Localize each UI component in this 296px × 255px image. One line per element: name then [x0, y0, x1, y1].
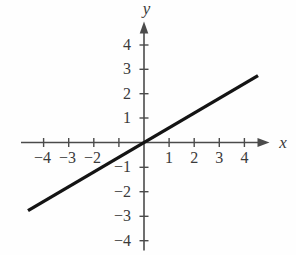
x-tick-label: −4 [34, 149, 51, 166]
x-axis-label: x [278, 133, 287, 152]
x-axis-tick-labels: −4 −3 −2 1 2 3 4 [34, 149, 249, 166]
x-tick-label: 1 [165, 149, 173, 166]
y-tick-label: 1 [123, 109, 131, 126]
coordinate-plane: −4 −3 −2 1 2 3 4 4 3 2 1 −1 −2 −3 −4 x y [0, 0, 296, 255]
x-tick-label: 3 [215, 149, 223, 166]
y-tick-label: −1 [114, 158, 131, 175]
y-tick-label: 3 [123, 60, 131, 77]
x-tick-label: 2 [190, 149, 198, 166]
x-axis-arrow-icon [258, 138, 270, 147]
x-tick-label: −2 [84, 149, 101, 166]
y-tick-label: 4 [123, 36, 131, 53]
x-tick-label: 4 [240, 149, 248, 166]
y-tick-label: −2 [114, 183, 131, 200]
x-tick-label: −3 [59, 149, 76, 166]
y-tick-label: −3 [114, 207, 131, 224]
y-tick-label: −4 [114, 232, 131, 249]
y-tick-label: 2 [123, 85, 131, 102]
graph-figure: −4 −3 −2 1 2 3 4 4 3 2 1 −1 −2 −3 −4 x y [0, 0, 296, 255]
y-axis-label: y [141, 0, 151, 18]
y-axis-arrow-icon [140, 22, 149, 34]
